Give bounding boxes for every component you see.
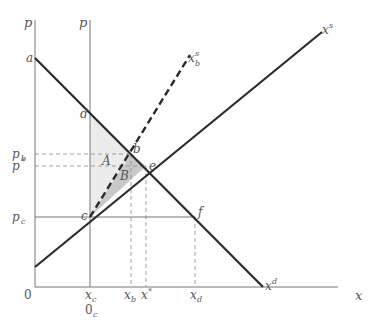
- svg-text:b: b: [131, 295, 136, 304]
- svg-text:x: x: [322, 23, 329, 37]
- svg-text:c: c: [93, 310, 98, 319]
- svg-text:c: c: [21, 217, 26, 226]
- price-label-pc: p c: [12, 210, 26, 226]
- svg-text:c: c: [92, 295, 97, 304]
- secondary-y-axis-label: p: [79, 15, 88, 30]
- point-a-label: a: [26, 51, 33, 65]
- region-b-label: B: [119, 169, 129, 183]
- y-axis-label: p: [24, 15, 33, 30]
- price-label-pstar: p *: [12, 157, 25, 173]
- quantity-label-xstar: x *: [141, 287, 152, 302]
- svg-text:0: 0: [85, 303, 93, 317]
- bank-supply-curve-label: x b s: [188, 49, 200, 68]
- svg-text:p: p: [12, 159, 20, 173]
- svg-text:*: *: [148, 287, 152, 296]
- region-a-label: A: [101, 154, 111, 168]
- svg-text:s: s: [329, 21, 333, 30]
- svg-text:d: d: [272, 277, 277, 286]
- supply-curve-label: x s: [322, 21, 333, 37]
- svg-text:*: *: [21, 157, 25, 166]
- svg-text:p: p: [12, 210, 20, 224]
- demand-curve-label: x d: [265, 277, 277, 293]
- svg-text:b: b: [195, 59, 200, 68]
- quantity-label-xd: x d: [190, 288, 202, 304]
- origin-label: 0: [24, 288, 32, 302]
- supply-demand-diagram: p p 0 x 0 c p b p * p c x c x b x * x d …: [0, 0, 378, 335]
- point-e-label: e: [149, 159, 156, 173]
- supply-curve: [35, 32, 322, 267]
- quantity-label-xc: x c: [85, 288, 97, 304]
- quantity-label-xb: x b: [124, 288, 136, 304]
- x-axis-label: x: [355, 288, 363, 303]
- svg-text:s: s: [195, 49, 199, 58]
- svg-text:x: x: [124, 288, 131, 302]
- svg-text:d: d: [197, 295, 202, 304]
- secondary-origin-label: 0 c: [85, 303, 98, 319]
- point-f-label: f: [197, 205, 205, 219]
- svg-text:x: x: [188, 51, 195, 65]
- svg-text:x: x: [190, 288, 197, 302]
- point-d-label: d: [80, 107, 88, 121]
- svg-text:x: x: [141, 288, 148, 302]
- svg-text:x: x: [265, 279, 272, 293]
- point-c-label: c: [81, 209, 88, 223]
- diagram-canvas: p p 0 x 0 c p b p * p c x c x b x * x d …: [0, 0, 378, 335]
- svg-text:x: x: [85, 288, 92, 302]
- axes: [35, 20, 338, 287]
- point-b-label: b: [133, 142, 141, 156]
